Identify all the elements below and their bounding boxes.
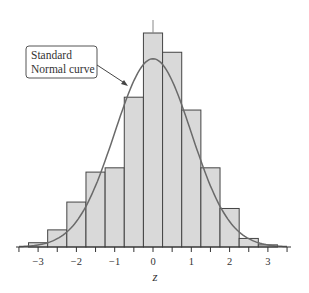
x-tick-label: 0 — [150, 256, 155, 267]
histogram-bar — [143, 33, 162, 247]
histogram-chart: −3−2−10123 z Standard Normal curve — [0, 0, 309, 293]
x-tick-label: −1 — [109, 256, 120, 267]
histogram-bar — [201, 168, 220, 247]
curve-annotation: Standard Normal curve — [26, 46, 128, 86]
histogram-bar — [124, 97, 143, 247]
histogram-bar — [105, 168, 124, 247]
histogram-bar — [239, 238, 258, 247]
x-tick-label: 2 — [227, 256, 232, 267]
histogram-bar — [67, 202, 86, 247]
histogram-bar — [220, 208, 239, 247]
x-tick-label: 1 — [189, 256, 194, 267]
histogram-bar — [86, 172, 105, 247]
annotation-line-2: Normal curve — [31, 63, 95, 75]
annotation-arrow — [97, 65, 126, 84]
annotation-line-1: Standard — [31, 49, 72, 61]
x-tick-label: −3 — [33, 256, 44, 267]
x-tick-label: −2 — [71, 256, 82, 267]
x-axis-label: z — [151, 269, 157, 284]
x-axis: −3−2−10123 — [16, 247, 291, 267]
x-tick-label: 3 — [265, 256, 270, 267]
